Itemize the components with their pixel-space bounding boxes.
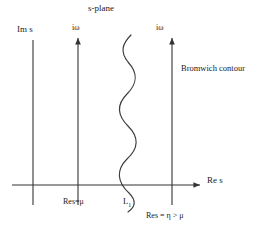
diagram-title: s-plane [88, 4, 114, 13]
real-axis-label: Re s [207, 176, 223, 185]
bromwich-contour-label: Bromwich contour [181, 64, 245, 73]
right-i-omega-label: iω [156, 24, 164, 32]
s-plane-diagram: s-plane Im s iω iω Bromwich contour Res=… [0, 0, 256, 229]
imaginary-axis-label: Im s [17, 25, 33, 34]
res-equals-eta-label: Res = η > μ [146, 212, 184, 220]
contour-l1-label: L1 [123, 197, 131, 208]
contour-l1-subscript: 1 [128, 202, 131, 208]
res-equals-mu-label: Res=μ [63, 198, 84, 206]
left-i-omega-label: iω [72, 24, 80, 32]
diagram-canvas [0, 0, 256, 229]
